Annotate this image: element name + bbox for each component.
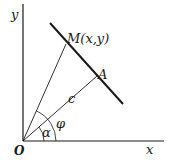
point-a-label: A (97, 67, 107, 82)
origin-label: O (14, 144, 25, 158)
x-axis-label: x (146, 142, 154, 157)
angle-alpha-label: α (42, 125, 51, 140)
segment-oa (23, 76, 97, 141)
point-m-label: M(x,y) (66, 31, 109, 46)
segment-c-label: c (68, 91, 76, 106)
y-axis-label: y (10, 7, 19, 22)
diagram-canvas: y x O M(x,y) A c α φ (0, 0, 172, 164)
angle-phi-label: φ (56, 116, 66, 131)
